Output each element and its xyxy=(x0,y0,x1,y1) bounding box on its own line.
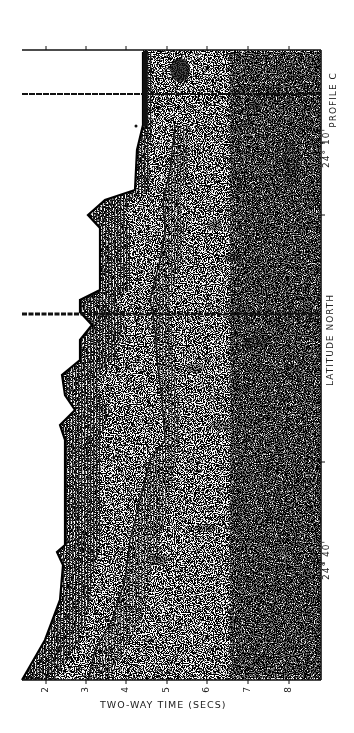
time-tick-7: 7 xyxy=(242,687,252,693)
time-tick-3: 3 xyxy=(80,687,90,693)
latitude-label-24-10: 24° 10' xyxy=(321,128,331,168)
time-axis-title: TWO-WAY TIME (SECS) xyxy=(100,699,226,710)
time-tick-5: 5 xyxy=(161,687,171,693)
time-tick-4: 4 xyxy=(120,687,130,693)
profile-title: PROFILE C xyxy=(328,65,338,135)
seismic-profile-plot xyxy=(0,0,354,733)
latitude-label-24-40: 24° 40' xyxy=(321,540,331,580)
time-tick-2: 2 xyxy=(40,687,50,693)
latitude-axis-title: LATITUDE NORTH xyxy=(325,296,335,386)
time-tick-6: 6 xyxy=(201,687,211,693)
surface-trace xyxy=(143,51,147,126)
time-tick-8: 8 xyxy=(283,687,293,693)
